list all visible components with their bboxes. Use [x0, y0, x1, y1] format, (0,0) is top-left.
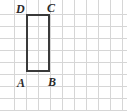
gridline-horizontal — [0, 98, 127, 99]
gridline-vertical — [62, 0, 63, 111]
gridline-vertical — [98, 0, 99, 111]
vertex-label-b: B — [48, 76, 56, 88]
vertex-label-d: D — [16, 3, 25, 15]
gridline-horizontal — [0, 38, 127, 39]
vertex-label-c: C — [47, 2, 55, 14]
gridline-vertical — [86, 0, 87, 111]
gridline-vertical — [122, 0, 123, 111]
figure-canvas: D C A B — [0, 0, 127, 111]
grid-paper — [0, 0, 127, 111]
gridline-vertical — [74, 0, 75, 111]
gridline-vertical — [14, 0, 15, 111]
gridline-horizontal — [0, 26, 127, 27]
rectangle-abcd — [26, 14, 50, 72]
gridline-horizontal — [0, 74, 127, 75]
gridline-horizontal — [0, 110, 127, 111]
gridline-vertical — [110, 0, 111, 111]
vertex-label-a: A — [17, 77, 25, 89]
gridline-horizontal — [0, 62, 127, 63]
gridline-horizontal — [0, 50, 127, 51]
gridline-vertical — [50, 0, 51, 111]
